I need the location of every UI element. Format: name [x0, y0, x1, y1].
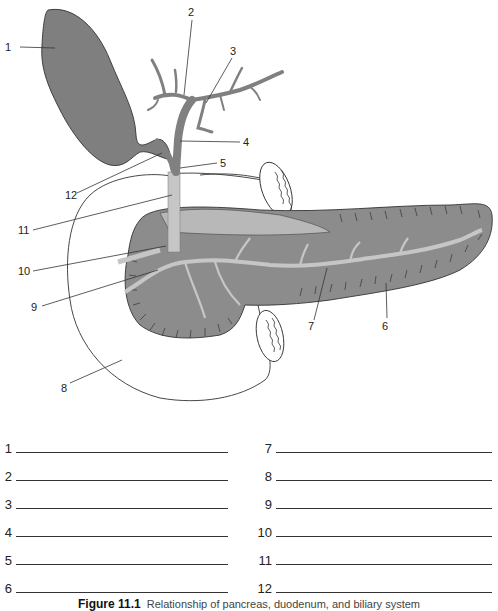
callout-3: 3	[230, 45, 236, 57]
answer-line[interactable]	[16, 451, 228, 453]
callout-2: 2	[188, 6, 194, 18]
callout-4: 4	[243, 136, 249, 148]
answer-row-5[interactable]: 5	[4, 550, 228, 568]
duodenum-lumen-bottom	[252, 308, 288, 364]
answer-number: 1	[4, 441, 12, 456]
answer-row-9[interactable]: 9	[256, 494, 492, 512]
answer-row-2[interactable]: 2	[4, 466, 228, 484]
answer-line[interactable]	[16, 507, 228, 509]
answer-row-7[interactable]: 7	[256, 438, 492, 456]
answer-line[interactable]	[276, 479, 492, 481]
answer-number: 2	[4, 469, 12, 484]
answer-row-4[interactable]: 4	[4, 522, 228, 540]
answer-number: 5	[4, 553, 12, 568]
answer-line[interactable]	[276, 591, 492, 593]
answer-line[interactable]	[16, 535, 228, 537]
answer-number: 3	[4, 497, 12, 512]
callout-12: 12	[65, 189, 77, 201]
answer-line[interactable]	[276, 535, 492, 537]
answer-line[interactable]	[276, 563, 492, 565]
answer-row-1[interactable]: 1	[4, 438, 228, 456]
answer-row-10[interactable]: 10	[256, 522, 492, 540]
callout-7: 7	[308, 320, 314, 332]
callout-9: 9	[31, 301, 37, 313]
callout-6: 6	[382, 320, 388, 332]
answer-line[interactable]	[276, 507, 492, 509]
gallbladder	[42, 9, 171, 165]
figure-caption: Figure 11.1Relationship of pancreas, duo…	[0, 597, 498, 611]
answer-number: 8	[256, 469, 272, 484]
answer-number: 4	[4, 525, 12, 540]
callout-10: 10	[18, 265, 30, 277]
answer-number: 10	[256, 525, 272, 540]
answer-row-12[interactable]: 12	[256, 578, 492, 596]
figure-number: Figure 11.1	[78, 597, 141, 611]
answer-row-11[interactable]: 11	[256, 550, 492, 568]
answer-number: 6	[4, 581, 12, 596]
answer-row-3[interactable]: 3	[4, 494, 228, 512]
callout-11: 11	[18, 224, 29, 236]
common-bile-duct-lower	[168, 172, 180, 252]
answer-line[interactable]	[16, 591, 228, 593]
answer-row-6[interactable]: 6	[4, 578, 228, 596]
figure-caption-text: Relationship of pancreas, duodenum, and …	[147, 598, 420, 610]
answer-number: 11	[256, 553, 272, 568]
answer-line[interactable]	[16, 479, 228, 481]
answer-line[interactable]	[276, 451, 492, 453]
answer-number: 7	[256, 441, 272, 456]
anatomy-diagram: 1 2 3 4 5 6 7 8 9 10 11 12	[0, 0, 498, 410]
answer-row-8[interactable]: 8	[256, 466, 492, 484]
answer-number: 9	[256, 497, 272, 512]
callout-1: 1	[5, 41, 11, 53]
callout-8: 8	[61, 382, 67, 394]
answer-number: 12	[256, 581, 272, 596]
answer-line[interactable]	[16, 563, 228, 565]
callout-5: 5	[220, 157, 226, 169]
